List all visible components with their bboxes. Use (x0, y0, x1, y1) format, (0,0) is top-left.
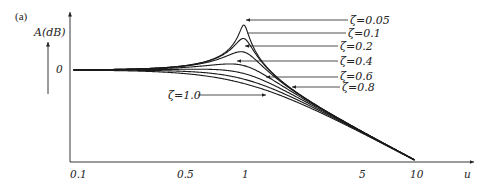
x-tick-10: 10 (410, 168, 424, 180)
y-tick-0: 0 (56, 63, 63, 75)
zeta-label-0.4: ζ=0.4 (340, 55, 373, 68)
zeta-label-group: ζ=0.05 ζ=0.1 ζ=0.2 ζ=0.4 ζ=0.6 ζ=0.8 ζ=1… (168, 14, 390, 102)
x-tick-0.1: 0.1 (70, 168, 87, 180)
x-tick-5: 5 (359, 168, 366, 180)
bode-magnitude-chart: (a) A(dB) 0 0.1 0.5 1 5 10 u ζ=0.05 ζ=0.… (0, 0, 486, 187)
zeta-label-1.0: ζ=1.0 (168, 89, 201, 102)
y-axis-label: A(dB) (33, 26, 66, 39)
zeta-label-0.05: ζ=0.05 (350, 14, 390, 27)
zeta-label-0.1: ζ=0.1 (348, 27, 381, 40)
panel-label: (a) (15, 10, 28, 23)
x-axis-label: u (464, 168, 471, 180)
zeta-label-0.2: ζ=0.2 (340, 40, 373, 53)
x-tick-0.5: 0.5 (177, 168, 194, 180)
zeta-label-0.8: ζ=0.8 (342, 81, 375, 94)
x-tick-1: 1 (242, 168, 249, 180)
